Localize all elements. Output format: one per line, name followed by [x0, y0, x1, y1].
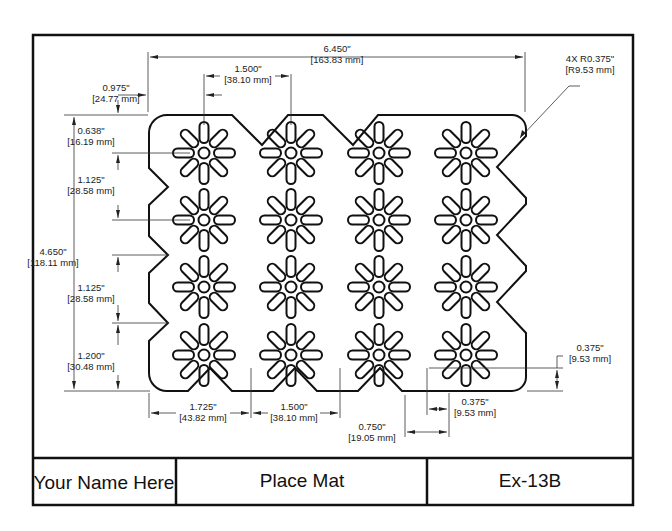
flower-center-hole — [286, 350, 297, 361]
flower-petal-slot — [287, 189, 296, 210]
dim-radius-mm: [R9.53 mm] — [565, 64, 614, 75]
dim-first-col-in: 0.975" — [102, 82, 129, 93]
flower-petal-slot — [462, 230, 471, 251]
title-block-name: Your Name Here — [34, 472, 175, 493]
dim-bottom-notch-offset-mm: [30.48 mm] — [67, 361, 115, 372]
flower-petal-slot — [260, 216, 281, 225]
flower-petal-slot — [383, 291, 404, 312]
dimension-arrows — [72, 55, 559, 434]
flower-petal-slot — [287, 324, 296, 345]
flower-petal-slot — [173, 351, 194, 360]
dim-notch-depth-in: 0.375" — [576, 342, 603, 353]
flower-petal-slot — [441, 128, 462, 149]
flower-petal-slot — [214, 283, 235, 292]
flower-petal-slot — [476, 149, 497, 158]
flower-center-hole — [199, 215, 210, 226]
flower-petal-slot — [200, 324, 209, 345]
flower-petal-slot — [295, 262, 316, 283]
flower-petal-slot — [200, 297, 209, 318]
flower-petal-slot — [441, 359, 462, 380]
title-block-drawing-number: Ex-13B — [499, 470, 561, 491]
flower-petal-slot — [383, 359, 404, 380]
flower-petal-slot — [266, 195, 287, 216]
flower-petal-slot — [208, 157, 229, 178]
flower-petal-slot — [354, 262, 375, 283]
flower-cutout — [348, 256, 410, 318]
flower-petal-slot — [179, 291, 200, 312]
flower-petal-slot — [179, 359, 200, 380]
flower-petal-slot — [389, 283, 410, 292]
flower-cutout — [260, 324, 322, 386]
flower-petal-slot — [441, 224, 462, 245]
flower-petal-slot — [470, 262, 491, 283]
flower-petal-slot — [441, 291, 462, 312]
flower-petal-slot — [208, 330, 229, 351]
flower-petal-slot — [214, 149, 235, 158]
flower-center-hole — [199, 282, 210, 293]
drawing-sheet: Your Name Here Place Mat Ex-13B — [0, 0, 672, 531]
flower-cutout — [348, 122, 410, 184]
flower-petal-slot — [295, 224, 316, 245]
flower-petal-slot — [287, 163, 296, 184]
dimension-lines — [64, 52, 580, 437]
flower-petal-slot — [375, 189, 384, 210]
flower-petal-slot — [383, 157, 404, 178]
flower-cutout-grid — [173, 122, 497, 386]
flower-cutout — [348, 324, 410, 386]
dim-bottom-notch-offset-in: 1.200" — [77, 350, 104, 361]
flower-petal-slot — [287, 256, 296, 277]
flower-petal-slot — [462, 163, 471, 184]
flower-petal-slot — [470, 195, 491, 216]
flower-center-hole — [374, 282, 385, 293]
flower-petal-slot — [301, 283, 322, 292]
flower-petal-slot — [179, 262, 200, 283]
dim-bottom-first-notch-in: 1.725" — [189, 401, 216, 412]
flower-petal-slot — [266, 291, 287, 312]
dim-notch-half-width-in: 0.375" — [461, 396, 488, 407]
flower-petal-slot — [462, 324, 471, 345]
flower-petal-slot — [383, 224, 404, 245]
dim-overall-width-mm: [163.83 mm] — [311, 54, 364, 65]
flower-petal-slot — [179, 128, 200, 149]
flower-petal-slot — [260, 283, 281, 292]
dim-bottom-notch-spacing-in: 1.500" — [280, 401, 307, 412]
dim-first-col-mm: [24.77 mm] — [92, 93, 140, 104]
flower-petal-slot — [301, 216, 322, 225]
flower-petal-slot — [435, 216, 456, 225]
dim-row-spacing-1-in: 1.125" — [77, 174, 104, 185]
flower-petal-slot — [435, 351, 456, 360]
flower-petal-slot — [476, 351, 497, 360]
flower-petal-slot — [470, 128, 491, 149]
flower-petal-slot — [441, 262, 462, 283]
flower-petal-slot — [348, 351, 369, 360]
flower-petal-slot — [200, 163, 209, 184]
flower-petal-slot — [208, 262, 229, 283]
flower-cutout — [173, 324, 235, 386]
flower-petal-slot — [354, 330, 375, 351]
flower-cutout — [435, 256, 497, 318]
flower-petal-slot — [348, 216, 369, 225]
dim-bottom-notch-spacing-mm: [38.10 mm] — [270, 412, 318, 423]
flower-center-hole — [374, 350, 385, 361]
flower-center-hole — [374, 148, 385, 159]
dim-overall-height-in: 4.650" — [39, 246, 66, 257]
flower-cutout — [435, 189, 497, 251]
dim-notch-depth-mm: [9.53 mm] — [569, 353, 611, 364]
flower-center-hole — [199, 148, 210, 159]
flower-petal-slot — [208, 224, 229, 245]
flower-petal-slot — [476, 283, 497, 292]
flower-petal-slot — [462, 256, 471, 277]
flower-petal-slot — [200, 230, 209, 251]
flower-petal-slot — [287, 297, 296, 318]
flower-petal-slot — [266, 157, 287, 178]
flower-petal-slot — [301, 351, 322, 360]
flower-petal-slot — [295, 157, 316, 178]
flower-petal-slot — [214, 216, 235, 225]
flower-petal-slot — [266, 330, 287, 351]
flower-petal-slot — [214, 351, 235, 360]
flower-petal-slot — [375, 297, 384, 318]
flower-cutout — [435, 324, 497, 386]
flower-petal-slot — [295, 195, 316, 216]
dim-row-spacing-2-mm: [28.58 mm] — [67, 293, 115, 304]
dim-col-spacing-mm: [38.10 mm] — [224, 74, 272, 85]
